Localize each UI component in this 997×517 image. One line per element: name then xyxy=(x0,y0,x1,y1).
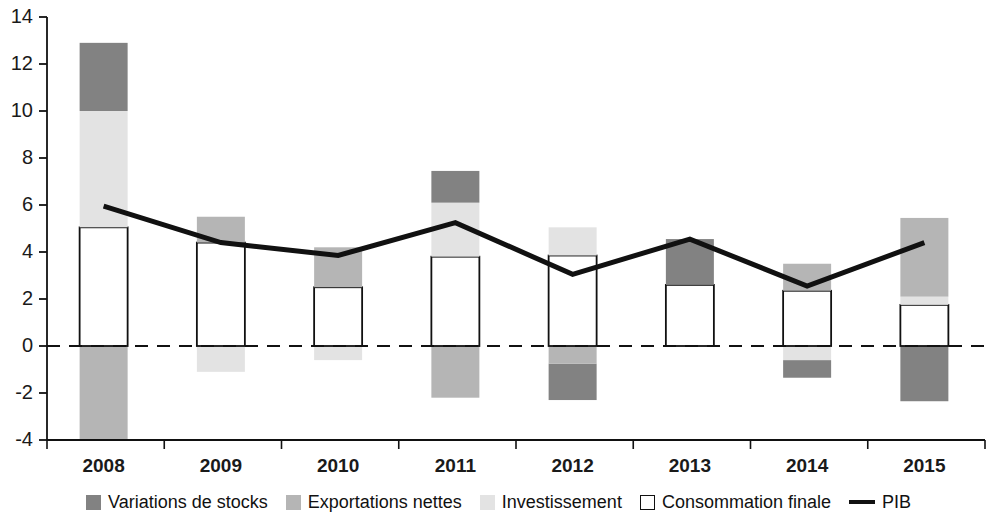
x-axis-tick-label-2013: 2013 xyxy=(669,455,711,476)
bar-segment xyxy=(549,364,597,400)
y-axis-tick-label: 6 xyxy=(22,193,33,215)
bar-group-2010 xyxy=(314,247,362,360)
chart-legend: Variations de stocksExportations nettesI… xyxy=(0,487,997,517)
chart-plot-area: -4-202468101214 200820092010201120122013… xyxy=(0,0,997,517)
bar-segment xyxy=(431,171,479,203)
bar-segment xyxy=(549,227,597,255)
chart-container: -4-202468101214 200820092010201120122013… xyxy=(0,0,997,517)
bar-segment xyxy=(900,305,948,346)
y-axis-tick-label: 0 xyxy=(22,334,33,356)
legend-line-swatch-icon xyxy=(849,500,875,504)
bar-group-2011 xyxy=(431,171,479,398)
legend-outlined-swatch-icon xyxy=(640,495,655,510)
bar-group-2012 xyxy=(549,227,597,400)
bar-segment xyxy=(549,346,597,364)
legend-item-label: Investissement xyxy=(502,492,622,513)
bar-segment xyxy=(80,227,128,346)
x-axis-tick-label-2008: 2008 xyxy=(82,455,124,476)
bar-group-2008 xyxy=(80,43,128,440)
legend-item-label: Variations de stocks xyxy=(108,492,268,513)
y-axis-tick-label: 4 xyxy=(22,240,33,262)
y-axis-tick-label: 2 xyxy=(22,287,33,309)
bar-segment xyxy=(431,257,479,346)
x-axis-tick-label-2015: 2015 xyxy=(903,455,946,476)
y-axis-tick-label: 12 xyxy=(11,52,33,74)
x-axis-tick-label-2009: 2009 xyxy=(200,455,242,476)
y-axis-tick-labels: -4-202468101214 xyxy=(11,5,33,450)
bar-segment xyxy=(783,360,831,378)
bar-segment xyxy=(900,346,948,401)
bar-segment xyxy=(666,285,714,346)
x-axis-tick-label-2014: 2014 xyxy=(786,455,829,476)
x-axis-tick-label-2012: 2012 xyxy=(551,455,593,476)
bar-group-2015 xyxy=(900,218,948,401)
x-axis-tick-label-2011: 2011 xyxy=(435,455,477,476)
bar-segment xyxy=(314,287,362,346)
bar-segment xyxy=(431,346,479,398)
legend-item-label: PIB xyxy=(882,492,911,513)
axis-layer xyxy=(39,17,985,449)
x-axis-tick-label-2010: 2010 xyxy=(317,455,359,476)
bar-segment xyxy=(80,43,128,111)
bar-segment xyxy=(80,346,128,440)
bar-group-2013 xyxy=(666,239,714,346)
bar-segment xyxy=(783,346,831,360)
y-axis-tick-label: -4 xyxy=(15,428,33,450)
legend-item-1[interactable]: Exportations nettes xyxy=(286,492,462,513)
legend-filled-swatch-icon xyxy=(286,495,301,510)
bar-segment xyxy=(197,243,245,346)
bar-segment xyxy=(783,291,831,346)
legend-filled-swatch-icon xyxy=(86,495,101,510)
bar-segment xyxy=(197,346,245,372)
legend-item-3[interactable]: Consommation finale xyxy=(640,492,831,513)
y-axis-tick-label: 10 xyxy=(11,99,33,121)
legend-item-4[interactable]: PIB xyxy=(849,492,911,513)
y-axis-tick-label: 8 xyxy=(22,146,33,168)
legend-filled-swatch-icon xyxy=(480,495,495,510)
bar-segment xyxy=(900,218,948,297)
legend-item-label: Consommation finale xyxy=(662,492,831,513)
y-axis-tick-label: 14 xyxy=(11,5,33,27)
legend-item-2[interactable]: Investissement xyxy=(480,492,622,513)
bar-segment xyxy=(314,346,362,360)
bar-segment xyxy=(900,297,948,305)
legend-item-label: Exportations nettes xyxy=(308,492,462,513)
y-axis-tick-label: -2 xyxy=(15,381,33,403)
x-axis-tick-labels: 20082009201020112012201320142015 xyxy=(82,455,945,476)
legend-item-0[interactable]: Variations de stocks xyxy=(86,492,268,513)
